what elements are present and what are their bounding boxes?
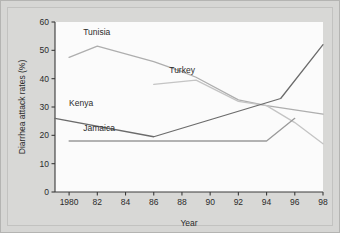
x-axis-title: Year — [180, 218, 197, 228]
x-tick-label: 98 — [318, 197, 328, 207]
x-tick-label: 82 — [93, 197, 103, 207]
y-tick-label: 10 — [40, 159, 50, 169]
y-tick-label: 20 — [40, 130, 50, 140]
x-tick-label: 86 — [149, 197, 159, 207]
x-tick-label: 90 — [205, 197, 215, 207]
x-tick-label: 84 — [121, 197, 131, 207]
x-tick-label: 94 — [262, 197, 272, 207]
x-axis: 1980828486889092949698 — [55, 192, 328, 207]
series-label-tunisia: Tunisia — [83, 27, 110, 37]
y-tick-label: 30 — [40, 102, 50, 112]
series-labels-group: TunisiaTurkeyKenyaJamaica — [69, 27, 196, 133]
y-axis-title: Diarrhea attack rates (%) — [17, 60, 27, 155]
series-label-turkey: Turkey — [169, 65, 195, 75]
series-line-turkey — [154, 80, 323, 144]
x-tick-label: 92 — [234, 197, 244, 207]
x-tick-label: 1980 — [60, 197, 79, 207]
chart-figure: 0102030405060 1980828486889092949698 Tun… — [0, 0, 340, 233]
series-label-kenya: Kenya — [69, 98, 93, 108]
series-label-jamaica: Jamaica — [83, 123, 115, 133]
y-tick-label: 60 — [40, 17, 50, 27]
line-chart: 0102030405060 1980828486889092949698 Tun… — [1, 1, 340, 233]
y-tick-label: 0 — [44, 187, 49, 197]
x-tick-label: 88 — [177, 197, 187, 207]
y-tick-label: 40 — [40, 74, 50, 84]
y-tick-label: 50 — [40, 45, 50, 55]
x-tick-label: 96 — [290, 197, 300, 207]
y-axis: 0102030405060 — [40, 17, 55, 197]
